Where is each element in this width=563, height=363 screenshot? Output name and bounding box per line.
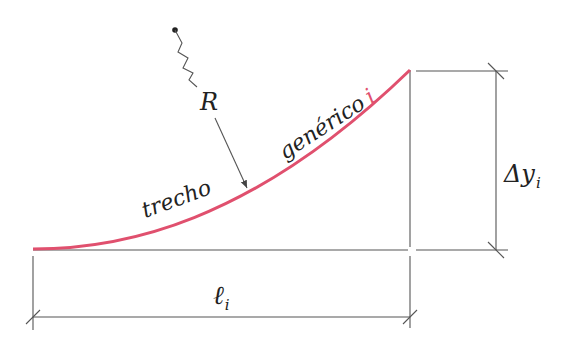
segment-label-generico: genéricoi: [274, 84, 379, 165]
diagram: R trecho genéricoi Δyi ℓi: [0, 0, 563, 363]
segment-label-word: genérico: [274, 90, 369, 164]
zigzag-break-icon: [175, 30, 197, 87]
radius-arrow: [215, 118, 247, 188]
length-label: ℓi: [213, 280, 230, 314]
length-subscript: i: [225, 296, 230, 314]
delta-y-subscript: i: [536, 174, 541, 192]
delta-y-label: Δyi: [503, 160, 541, 192]
radius-label: R: [199, 88, 218, 116]
length-symbol: ℓ: [213, 280, 224, 310]
diagram-svg: R trecho genéricoi Δyi ℓi: [0, 0, 563, 363]
delta-y-symbol: Δy: [503, 160, 535, 188]
